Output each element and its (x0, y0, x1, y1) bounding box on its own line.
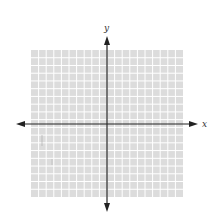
x-axis-label: x (202, 119, 207, 129)
x-axis-left-arrow-icon (16, 121, 25, 127)
y-axis-up-arrow-icon (104, 36, 110, 45)
y-axis-label: y (103, 23, 110, 33)
x-axis-right-arrow-icon (189, 121, 198, 127)
y-axis-down-arrow-icon (104, 203, 110, 212)
coordinate-plane: x y (0, 0, 214, 220)
